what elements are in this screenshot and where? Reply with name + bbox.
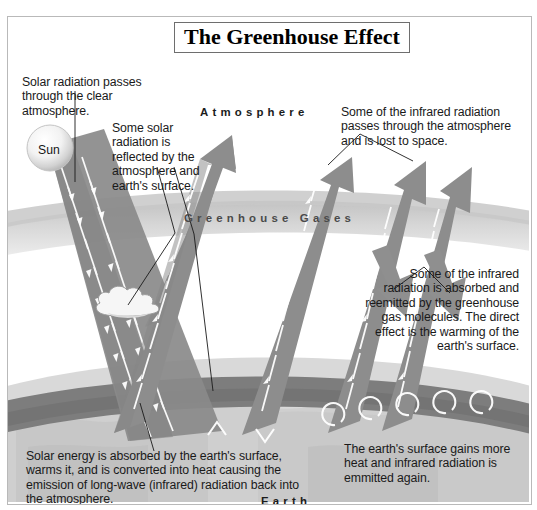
greenhouse-gases-label: Greenhouse Gases <box>184 212 355 224</box>
title-box: The Greenhouse Effect <box>174 22 410 53</box>
callout-solar-radiation-passes: Solar radiation passes through the clear… <box>22 75 172 118</box>
sun-label: Sun <box>38 143 60 157</box>
callout-infrared-lost-to-space: Some of the infrared radiation passes th… <box>341 105 531 148</box>
earth-label: Earth <box>261 495 311 505</box>
callout-surface-gains-heat: The earth's surface gains more heat and … <box>344 442 524 485</box>
diagram-frame: The Greenhouse Effect Atmosphere Greenho… <box>7 16 532 505</box>
page-title: The Greenhouse Effect <box>184 24 400 49</box>
callout-some-solar-reflected: Some solar radiation is reflected by the… <box>112 121 206 193</box>
callout-absorbed-reemitted: Some of the infrared radiation is absorb… <box>361 267 519 353</box>
diagram-canvas: The Greenhouse Effect Atmosphere Greenho… <box>0 0 537 510</box>
atmosphere-label: Atmosphere <box>200 106 308 118</box>
page-top-clipped-text <box>120 0 420 5</box>
